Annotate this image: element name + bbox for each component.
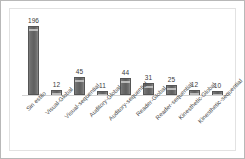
bar-value-label: 31 <box>145 74 152 82</box>
x-tick-slot: Reader-sequential <box>160 97 183 159</box>
x-tick-slot: Visual-Global <box>45 97 68 159</box>
bar-slot[interactable]: 45 <box>68 17 91 95</box>
x-tick-slot: Kinesthetic-Global <box>183 97 206 159</box>
bar-series: 196 12 45 11 44 <box>22 17 229 95</box>
bar-value-label: 25 <box>168 76 175 84</box>
x-tick-slot: Visual-sequential <box>68 97 91 159</box>
bar-value-label: 44 <box>122 69 129 77</box>
bar-slot[interactable]: 25 <box>160 17 183 95</box>
bar-rect[interactable] <box>74 77 85 95</box>
x-tick-slot: Sin estilo <box>22 97 45 159</box>
plot-frame: 196 12 45 11 44 <box>9 8 236 151</box>
bar-rect[interactable] <box>28 26 39 95</box>
bar-chart-figure: 196 12 45 11 44 <box>0 0 245 159</box>
bar-value-label: 45 <box>76 68 83 76</box>
plot-area: 196 12 45 11 44 <box>22 17 229 95</box>
x-tick-slot: Reader-Global <box>137 97 160 159</box>
bar-value-label: 12 <box>53 81 60 89</box>
bar-slot[interactable]: 12 <box>45 17 68 95</box>
x-tick-slot: Kinesthetic-sequential <box>206 97 229 159</box>
x-tick-slot: Auditory-sequential <box>114 97 137 159</box>
bar-value-label: 196 <box>28 17 39 25</box>
x-axis-labels: Sin estilo Visual-Global Visual-sequenti… <box>22 97 229 159</box>
bar-rect[interactable] <box>120 78 131 95</box>
bar-slot[interactable]: 196 <box>22 17 45 95</box>
x-tick-slot: Auditory-Global <box>91 97 114 159</box>
bar-rect[interactable] <box>166 85 177 95</box>
